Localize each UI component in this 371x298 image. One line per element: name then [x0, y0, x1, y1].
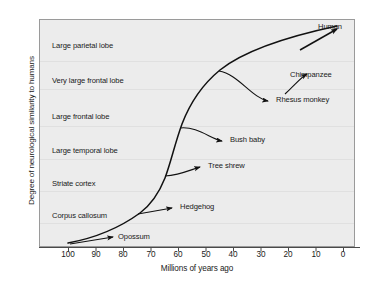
evolution-neurological-similarity-chart: Degree of neurological similarity to hum… [0, 0, 371, 298]
gridline [40, 89, 354, 90]
annotation-label-tree-shrew: Tree shrew [208, 161, 245, 170]
gridline [40, 159, 354, 160]
x-tick-label: 90 [84, 250, 108, 259]
x-tick-label: 100 [56, 250, 80, 259]
gridline [40, 191, 354, 192]
annotation-label-chimpanzee: Chimpanzee [290, 70, 332, 79]
y-category-label-striate-cortex: Striate cortex [52, 179, 95, 188]
x-tick-label: 0 [331, 250, 355, 259]
gridline [40, 126, 354, 127]
y-axis-title: Degree of neurological similarity to hum… [27, 16, 36, 246]
annotation-label-hedgehog: Hedgehog [180, 202, 214, 211]
gridline [40, 61, 354, 62]
y-category-label-very-large-frontal-lobe: Very large frontal lobe [52, 76, 124, 85]
x-tick-label: 30 [249, 250, 273, 259]
annotation-label-opossum: Opossum [118, 232, 150, 241]
x-tick-label: 50 [194, 250, 218, 259]
x-tick-label: 40 [221, 250, 245, 259]
annotation-label-human: Human [318, 22, 342, 31]
x-tick-label: 80 [111, 250, 135, 259]
y-category-label-large-temporal-lobe: Large temporal lobe [52, 146, 118, 155]
gridline [40, 223, 354, 224]
x-tick-label: 10 [304, 250, 328, 259]
x-tick-label: 20 [276, 250, 300, 259]
x-tick-label: 70 [139, 250, 163, 259]
x-axis-title: Millions of years ago [39, 264, 355, 273]
y-category-label-large-parietal-lobe: Large parietal lobe [52, 41, 113, 50]
annotation-label-bush-baby: Bush baby [230, 135, 265, 144]
annotation-label-rhesus-monkey: Rhesus monkey [276, 95, 329, 104]
x-tick-label: 60 [166, 250, 190, 259]
y-category-label-large-frontal-lobe: Large frontal lobe [52, 112, 109, 121]
y-category-label-corpus-callosum: Corpus callosum [52, 211, 107, 220]
